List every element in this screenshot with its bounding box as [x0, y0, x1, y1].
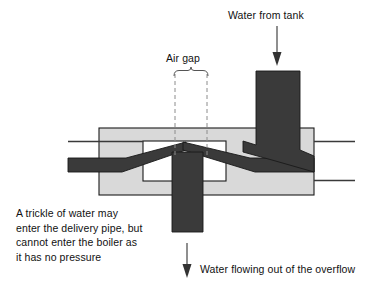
label-overflow: Water flowing out of the overflow [200, 262, 355, 276]
label-water-from-tank: Water from tank [228, 8, 304, 22]
label-trickle-note: A trickle of water may enter the deliver… [16, 206, 143, 264]
air-gap-overflow-diagram: Water from tank Air gap A trickle of wat… [0, 0, 388, 297]
label-air-gap: Air gap [166, 51, 200, 65]
outflow-arrow-head [183, 264, 192, 278]
overflow-pipe [172, 152, 203, 232]
air-gap-brace [174, 67, 208, 76]
inflow-arrow-head [273, 52, 282, 66]
